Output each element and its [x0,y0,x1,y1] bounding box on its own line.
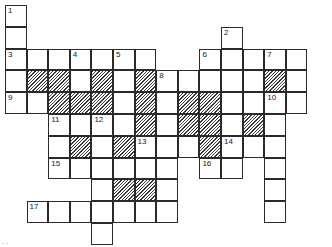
answer-cell[interactable] [113,114,135,136]
answer-cell[interactable] [243,49,265,71]
answer-cell[interactable]: 14 [221,136,243,158]
clue-number: 3 [8,50,12,59]
answer-cell[interactable] [5,27,27,49]
answer-cell[interactable]: 5 [113,49,135,71]
clue-number: 12 [94,115,103,124]
crossword-grid: 1234567891011121314151617 [0,0,332,247]
blocked-cell [135,114,157,136]
blocked-cell [135,92,157,114]
clue-number: 8 [159,71,163,80]
answer-cell[interactable]: 11 [48,114,70,136]
blocked-cell [27,70,49,92]
answer-cell[interactable] [156,158,178,180]
answer-cell[interactable] [113,201,135,223]
answer-cell[interactable]: 7 [264,49,286,71]
answer-cell[interactable] [178,136,200,158]
answer-cell[interactable]: 17 [27,201,49,223]
answer-cell[interactable] [221,49,243,71]
answer-cell[interactable] [221,92,243,114]
answer-cell[interactable] [156,92,178,114]
clue-number: 6 [202,50,206,59]
blocked-cell [135,179,157,201]
answer-cell[interactable] [135,201,157,223]
blocked-cell [178,92,200,114]
clue-number: 9 [8,93,12,102]
answer-cell[interactable] [221,70,243,92]
answer-cell[interactable] [264,114,286,136]
answer-cell[interactable] [264,179,286,201]
answer-cell[interactable] [156,136,178,158]
clue-number: 1 [8,6,12,15]
answer-cell[interactable] [70,158,92,180]
answer-cell[interactable] [91,201,113,223]
blocked-cell [243,114,265,136]
answer-cell[interactable]: 12 [91,114,113,136]
answer-cell[interactable] [48,201,70,223]
answer-cell[interactable]: 8 [156,70,178,92]
answer-cell[interactable] [221,158,243,180]
clue-number: 15 [51,159,60,168]
blocked-cell [48,92,70,114]
clue-number: 14 [224,137,233,146]
clue-number: 10 [267,93,276,102]
answer-cell[interactable]: 2 [221,27,243,49]
answer-cell[interactable] [113,92,135,114]
answer-cell[interactable] [48,136,70,158]
answer-cell[interactable] [264,136,286,158]
blocked-cell [135,70,157,92]
answer-cell[interactable] [156,179,178,201]
answer-cell[interactable] [243,136,265,158]
answer-cell[interactable] [48,49,70,71]
answer-cell[interactable] [243,70,265,92]
clue-number: 2 [224,28,228,37]
answer-cell[interactable]: 6 [199,49,221,71]
answer-cell[interactable] [113,70,135,92]
blocked-cell [178,114,200,136]
answer-cell[interactable] [91,179,113,201]
answer-cell[interactable]: 3 [5,49,27,71]
answer-cell[interactable] [91,49,113,71]
clue-number: 5 [116,50,120,59]
answer-cell[interactable] [243,92,265,114]
answer-cell[interactable] [135,158,157,180]
clue-number: 11 [51,115,59,124]
answer-cell[interactable] [91,158,113,180]
answer-cell[interactable]: 9 [5,92,27,114]
blocked-cell [113,179,135,201]
blocked-cell [199,136,221,158]
clue-number: 16 [202,159,211,168]
answer-cell[interactable]: 16 [199,158,221,180]
answer-cell[interactable]: 1 [5,5,27,27]
blocked-cell [70,136,92,158]
clue-number: 4 [73,50,77,59]
blocked-cell [70,92,92,114]
answer-cell[interactable] [70,114,92,136]
answer-cell[interactable] [286,92,308,114]
answer-cell[interactable] [156,114,178,136]
answer-cell[interactable] [221,114,243,136]
answer-cell[interactable] [5,70,27,92]
answer-cell[interactable]: 13 [135,136,157,158]
answer-cell[interactable] [135,49,157,71]
answer-cell[interactable] [178,70,200,92]
answer-cell[interactable] [264,158,286,180]
answer-cell[interactable] [91,223,113,245]
blocked-cell [264,70,286,92]
blocked-cell [113,136,135,158]
answer-cell[interactable] [286,70,308,92]
answer-cell[interactable] [199,70,221,92]
answer-cell[interactable]: 15 [48,158,70,180]
answer-cell[interactable] [156,201,178,223]
answer-cell[interactable] [27,92,49,114]
answer-cell[interactable] [70,201,92,223]
answer-cell[interactable] [91,136,113,158]
blocked-cell [91,92,113,114]
answer-cell[interactable] [113,158,135,180]
clue-number: 17 [30,202,39,211]
answer-cell[interactable] [70,70,92,92]
answer-cell[interactable]: 10 [264,92,286,114]
answer-cell[interactable]: 4 [70,49,92,71]
answer-cell[interactable] [264,201,286,223]
answer-cell[interactable] [27,49,49,71]
answer-cell[interactable] [286,49,308,71]
